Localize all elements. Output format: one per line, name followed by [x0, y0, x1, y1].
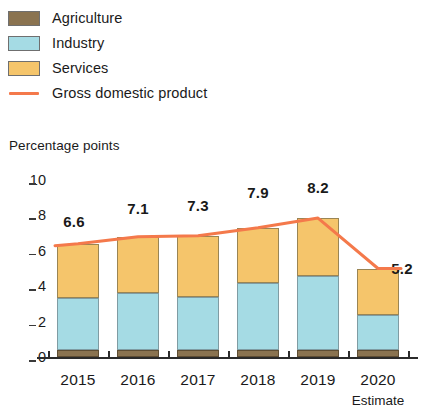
- gdp-data-label: 7.9: [247, 185, 268, 200]
- y-axis-tick-mark: [29, 183, 36, 185]
- y-axis-tick-mark: [29, 325, 36, 327]
- bar-segment-agriculture[interactable]: [357, 350, 399, 357]
- gdp-data-label: 5.2: [391, 261, 412, 276]
- y-axis-tick-label: 10: [0, 173, 46, 188]
- bar-segment-industry[interactable]: [177, 297, 219, 350]
- bar-segment-industry[interactable]: [57, 298, 99, 350]
- bar-segment-services[interactable]: [237, 228, 279, 283]
- bar-segment-agriculture[interactable]: [117, 350, 159, 357]
- y-axis-tick-label: 4: [0, 279, 46, 294]
- x-axis-baseline: [37, 357, 418, 359]
- x-axis-tick-label: 2017: [180, 372, 215, 388]
- x-axis-tick-mark: [288, 351, 290, 357]
- y-axis-tick-mark: [29, 360, 36, 362]
- y-axis-tick-label: 8: [0, 208, 46, 223]
- y-axis-tick-label: 6: [0, 244, 46, 259]
- bar-segment-agriculture[interactable]: [57, 350, 99, 357]
- estimate-note: Estimate: [352, 394, 405, 408]
- y-axis-tick-mark: [29, 218, 36, 220]
- x-axis-tick-label: 2018: [240, 372, 275, 388]
- gdp-data-label: 7.1: [127, 201, 148, 216]
- bar-column[interactable]: [297, 180, 339, 357]
- x-axis-tick-mark: [108, 351, 110, 357]
- bar-segment-agriculture[interactable]: [237, 350, 279, 357]
- bar-column[interactable]: [237, 180, 279, 357]
- bar-segment-services[interactable]: [177, 236, 219, 297]
- y-axis-tick-mark: [29, 289, 36, 291]
- x-axis-tick-mark: [48, 351, 50, 357]
- bar-segment-industry[interactable]: [117, 293, 159, 350]
- x-axis-tick-label: 2019: [300, 372, 335, 388]
- bar-segment-agriculture[interactable]: [177, 350, 219, 357]
- bar-segment-services[interactable]: [297, 218, 339, 276]
- y-axis-tick-label: 2: [0, 314, 46, 329]
- x-axis-tick-mark: [348, 351, 350, 357]
- x-axis-tick-label: 2020: [360, 372, 395, 388]
- x-axis-tick-label: 2015: [60, 372, 95, 388]
- bar-column[interactable]: [57, 180, 99, 357]
- gdp-data-label: 6.6: [63, 214, 84, 229]
- bar-segment-services[interactable]: [117, 237, 159, 294]
- gdp-data-label: 7.3: [187, 198, 208, 213]
- gdp-sector-contribution-chart: AgricultureIndustryServicesGross domesti…: [0, 0, 433, 413]
- bar-segment-industry[interactable]: [237, 283, 279, 350]
- plot-area: 0246810201520162017201820192020Estimate6…: [0, 0, 433, 413]
- bar-segment-industry[interactable]: [297, 276, 339, 350]
- x-axis-tick-mark: [408, 351, 410, 357]
- x-axis-tick-mark: [168, 351, 170, 357]
- bar-segment-industry[interactable]: [357, 315, 399, 350]
- bar-segment-agriculture[interactable]: [297, 350, 339, 357]
- x-axis-tick-label: 2016: [120, 372, 155, 388]
- bar-segment-services[interactable]: [57, 244, 99, 298]
- y-axis-tick-mark: [29, 254, 36, 256]
- gdp-data-label: 8.2: [307, 180, 328, 195]
- x-axis-tick-mark: [228, 351, 230, 357]
